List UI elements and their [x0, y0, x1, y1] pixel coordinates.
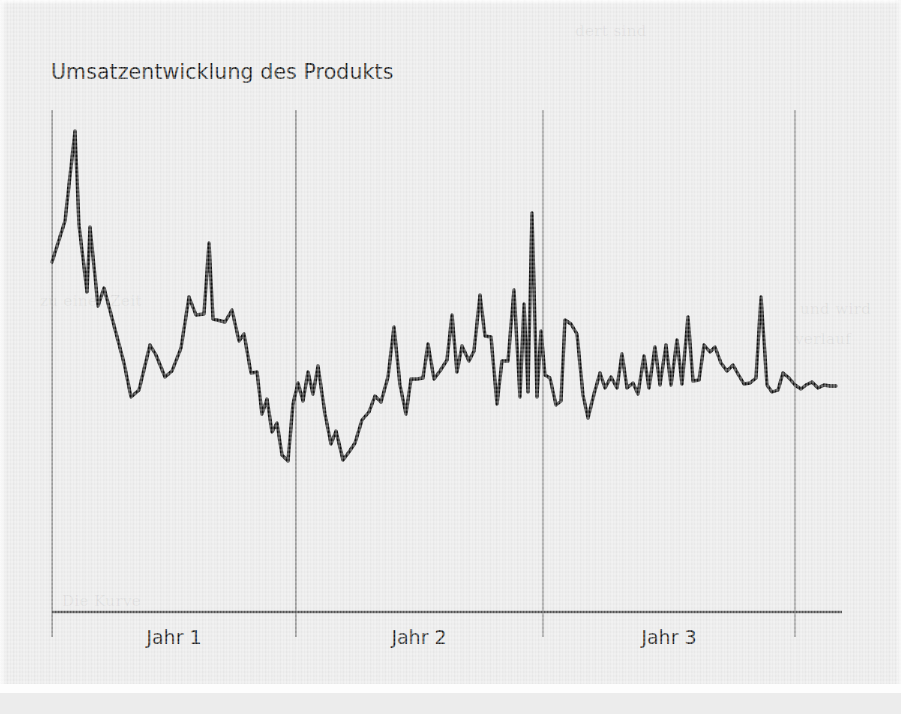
- x-tick-label-1: Jahr 1: [145, 626, 201, 648]
- x-tick-label-2: Jahr 2: [390, 626, 446, 648]
- x-tick-label-3: Jahr 3: [640, 626, 696, 648]
- scanned-page: dert sind zu einer Zeit und wird verlauf…: [0, 0, 901, 714]
- series-line-umsatz: [52, 131, 836, 461]
- sales-line-chart: Jahr 1Jahr 2Jahr 3: [0, 0, 901, 714]
- page-bottom-band: [0, 693, 901, 714]
- x-axis-tick-labels: Jahr 1Jahr 2Jahr 3: [145, 626, 696, 648]
- page-gutter: [0, 684, 901, 693]
